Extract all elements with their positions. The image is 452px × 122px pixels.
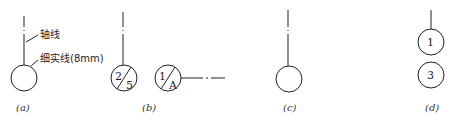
circle1-top: 2 bbox=[115, 70, 122, 83]
axis-number-diagram: 轴线 细实线(8mm) (a) 2 5 1 A (b) (c) 1 3 (d) bbox=[0, 0, 452, 122]
leader-axis bbox=[26, 35, 38, 42]
label-axis: 轴线 bbox=[40, 28, 60, 40]
caption-b: (b) bbox=[142, 102, 156, 113]
axis-circle-c bbox=[276, 66, 302, 92]
caption-c: (c) bbox=[283, 102, 297, 113]
axis-circle-a bbox=[11, 65, 37, 91]
caption-d: (d) bbox=[425, 102, 439, 113]
caption-a: (a) bbox=[16, 102, 30, 113]
circle2-bottom: A bbox=[168, 79, 178, 92]
circle2-top: 1 bbox=[159, 70, 166, 83]
figure-a bbox=[11, 16, 38, 91]
figure-c bbox=[276, 10, 302, 92]
circle-d-top: 1 bbox=[427, 36, 434, 49]
label-thin-line: 细实线(8mm) bbox=[40, 52, 104, 64]
circle-d-bottom: 3 bbox=[427, 69, 434, 82]
circle1-bottom: 5 bbox=[126, 79, 133, 92]
leader-line bbox=[31, 60, 38, 66]
